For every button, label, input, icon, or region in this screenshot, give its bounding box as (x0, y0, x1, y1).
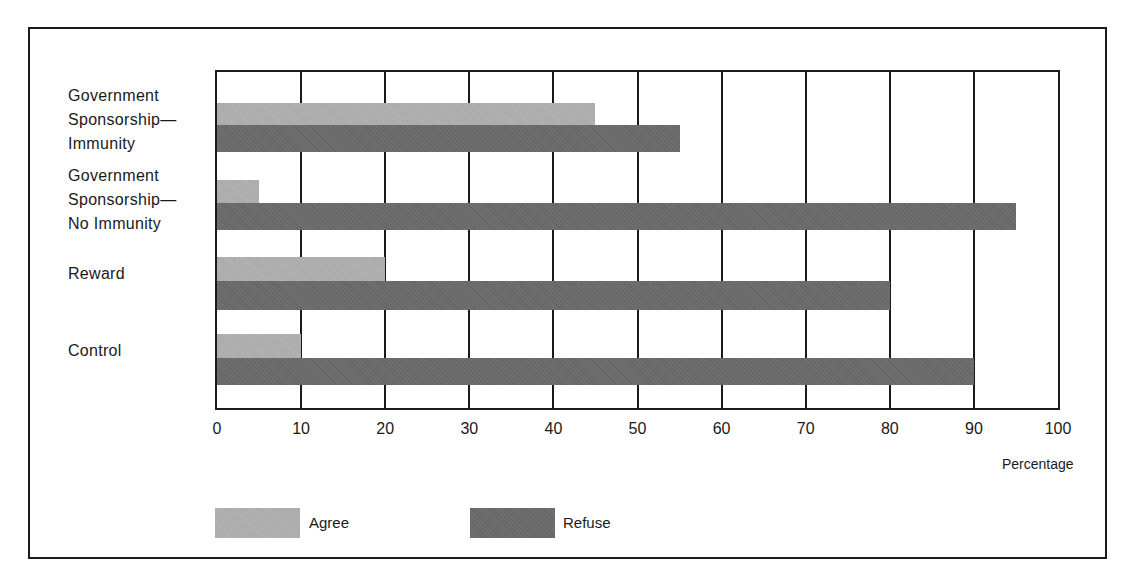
label-line: No Immunity (68, 212, 177, 236)
label-line: Immunity (68, 132, 177, 156)
category-label-gov-no-immunity: Government Sponsorship— No Immunity (68, 164, 177, 236)
bar-agree-gov-no-immunity (217, 180, 259, 203)
x-tick-label: 30 (460, 420, 478, 438)
label-line: Government (68, 84, 177, 108)
x-axis-label: Percentage (1002, 456, 1074, 472)
x-tick-label: 0 (213, 420, 222, 438)
legend-label-refuse: Refuse (563, 514, 611, 531)
bar-agree-control (217, 334, 301, 358)
label-line: Sponsorship— (68, 108, 177, 132)
label-line: Reward (68, 262, 125, 286)
x-tick-label: 80 (881, 420, 899, 438)
label-line: Sponsorship— (68, 188, 177, 212)
x-tick-label: 90 (965, 420, 983, 438)
legend-label-agree: Agree (309, 514, 349, 531)
x-tick-label: 40 (544, 420, 562, 438)
x-tick-label: 10 (292, 420, 310, 438)
x-tick-label: 60 (713, 420, 731, 438)
category-label-reward: Reward (68, 262, 125, 286)
legend-swatch-refuse (470, 508, 555, 538)
bar-refuse-reward (217, 281, 890, 310)
bar-agree-gov-immunity (217, 103, 595, 125)
legend-swatch-agree (215, 508, 300, 538)
x-tick-label: 70 (797, 420, 815, 438)
bar-refuse-control (217, 358, 974, 385)
bar-refuse-gov-immunity (217, 125, 680, 152)
label-line: Control (68, 339, 122, 363)
x-tick-label: 100 (1045, 420, 1072, 438)
label-line: Government (68, 164, 177, 188)
x-tick-label: 20 (376, 420, 394, 438)
plot-area (215, 70, 1060, 410)
category-label-gov-immunity: Government Sponsorship— Immunity (68, 84, 177, 156)
category-label-control: Control (68, 339, 122, 363)
bar-refuse-gov-no-immunity (217, 203, 1016, 230)
bar-agree-reward (217, 257, 385, 281)
x-tick-label: 50 (629, 420, 647, 438)
